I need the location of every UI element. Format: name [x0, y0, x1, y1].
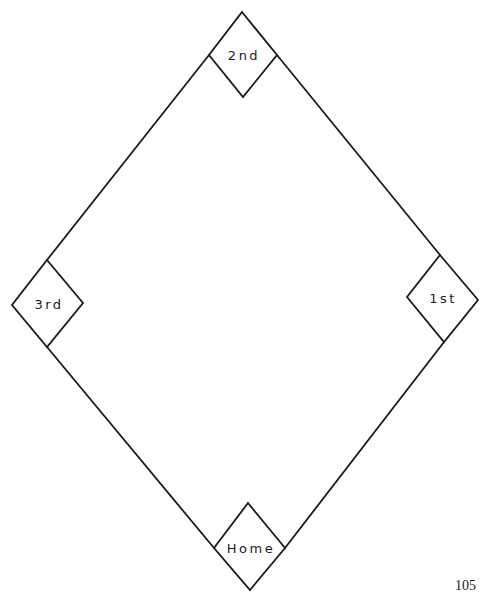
base-third: 3rd — [12, 260, 83, 347]
base-second-label: 2nd — [228, 48, 260, 63]
base-first-label: 1st — [429, 291, 457, 306]
base-first: 1st — [407, 255, 478, 342]
baseline-third-to-second — [47, 55, 209, 260]
base-home-label: Home — [227, 541, 275, 556]
base-home: Home — [214, 503, 285, 590]
base-third-label: 3rd — [34, 297, 63, 312]
baseball-diamond: 2nd 3rd 1st Home — [0, 0, 497, 605]
page-number: 105 — [455, 578, 476, 594]
baseline-second-to-first — [277, 55, 440, 255]
baseline-home-to-third — [47, 347, 214, 548]
baseline-first-to-home — [285, 342, 444, 548]
base-second: 2nd — [209, 12, 277, 97]
